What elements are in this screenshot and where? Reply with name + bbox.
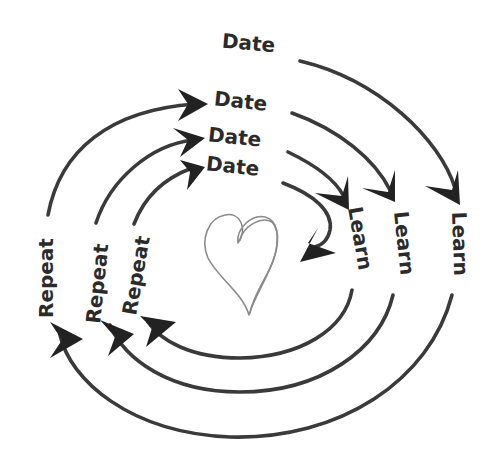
label-repeat-inner: Repeat: [117, 234, 155, 317]
date-learn-repeat-diagram: Date Date Date Date Learn Learn Learn Re…: [0, 0, 495, 458]
label-date-inner: Date: [205, 151, 260, 180]
arc-date-to-learn-middle: [292, 113, 390, 190]
label-repeat-middle: Repeat: [81, 242, 113, 324]
arrowhead-learn-outer: [425, 170, 460, 205]
arc-date-to-heart: [283, 183, 330, 247]
label-learn-inner: Learn: [343, 205, 378, 272]
label-date-2: Date: [213, 86, 268, 115]
arc-repeat-to-date-inner: [134, 168, 192, 224]
diagram-svg: Date Date Date Date Learn Learn Learn Re…: [0, 0, 495, 458]
label-learn-middle: Learn: [389, 210, 420, 276]
label-date-3: Date: [207, 122, 262, 151]
arc-repeat-to-date-outer: [48, 104, 195, 215]
label-learn-outer: Learn: [447, 211, 473, 276]
arc-repeat-to-date-middle: [96, 140, 193, 223]
arrowhead-date-inner: [180, 160, 205, 190]
label-repeat-outer: Repeat: [34, 238, 58, 318]
heart-icon: [205, 215, 278, 315]
label-date-outer: Date: [221, 29, 276, 58]
arc-learn-to-repeat-inner: [148, 290, 352, 358]
arc-learn-to-repeat-outer: [60, 295, 452, 437]
